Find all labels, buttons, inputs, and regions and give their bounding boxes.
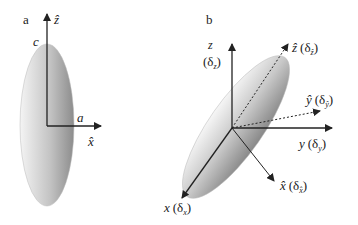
z-hat-label: ẑ(δẑ) [291, 40, 318, 57]
ellipsoid-diagram: a ẑ c a x̂ b z (δz) ẑ(δẑ) ŷ(δŷ) y(δy) x̂… [0, 0, 358, 225]
z-delta-label: (δz) [203, 54, 221, 71]
panel-label-a: a [23, 12, 29, 27]
x-label: x(δx) [163, 200, 191, 217]
panel-a: a ẑ c a x̂ [20, 12, 101, 206]
x-hat-label: x̂ [87, 134, 94, 149]
y-hat-label: ŷ(δŷ) [304, 92, 333, 109]
y-label: y(δy) [297, 136, 326, 153]
z-label: z [207, 38, 213, 52]
z-hat-label: ẑ [53, 12, 60, 27]
semi-axis-a-label: a [77, 110, 84, 125]
panel-label-b: b [206, 12, 213, 27]
semi-axis-c-label: c [33, 34, 39, 49]
x-hat-label: x̂(δx̂) [279, 178, 307, 195]
panel-b: b z (δz) ẑ(δẑ) ŷ(δŷ) y(δy) x̂(δx̂) x(δx) [163, 12, 333, 217]
